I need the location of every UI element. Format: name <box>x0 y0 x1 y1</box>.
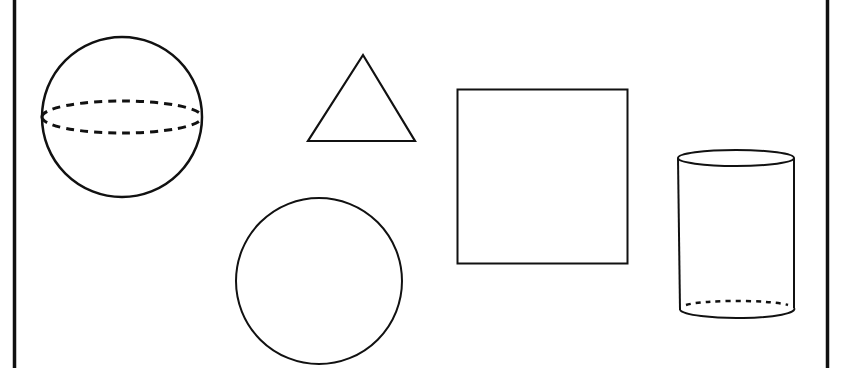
cylinder <box>678 150 794 318</box>
circle <box>236 198 402 364</box>
shapes-diagram <box>0 0 848 368</box>
sphere <box>42 37 202 197</box>
triangle <box>308 55 415 141</box>
square <box>458 90 628 264</box>
